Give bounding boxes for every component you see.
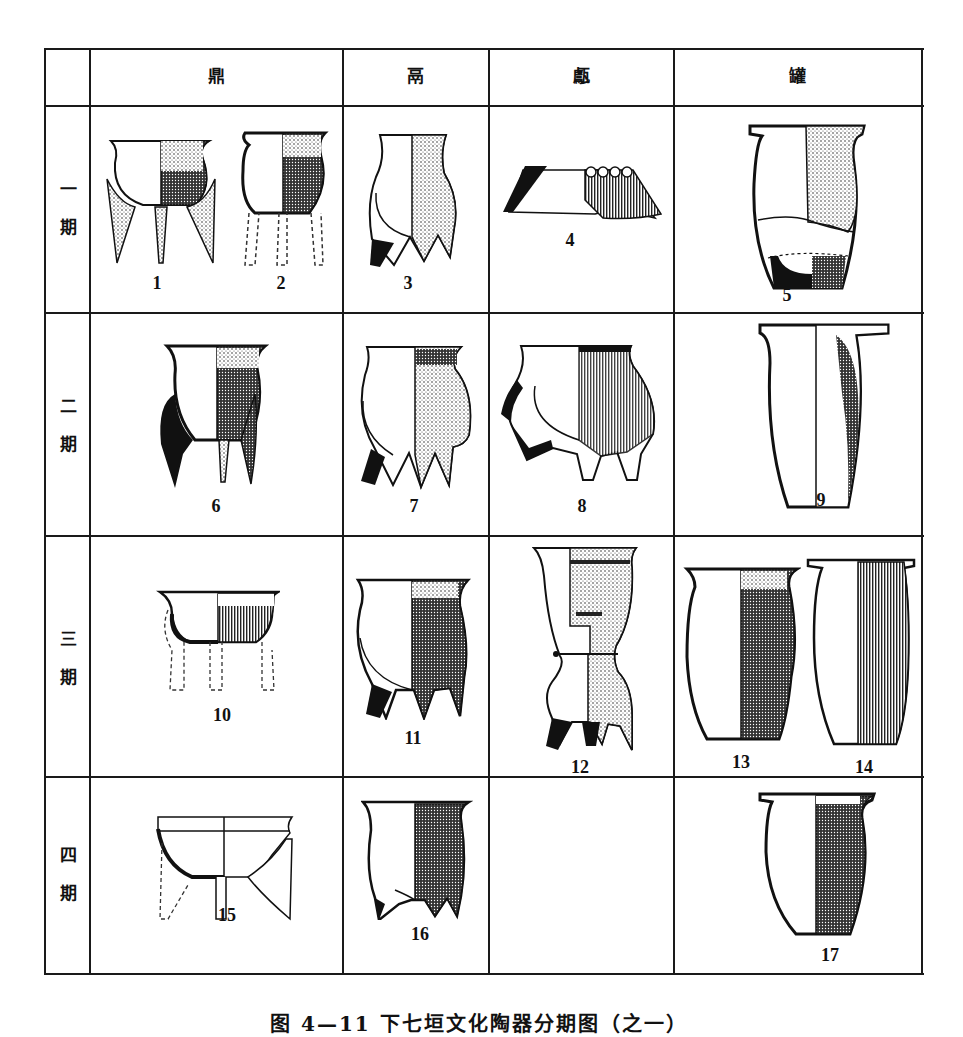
vessel-12-yan-drawing xyxy=(532,546,642,754)
vessel-8-yan-drawing xyxy=(497,344,662,484)
item-number-1: 1 xyxy=(153,273,162,294)
col-divider-4 xyxy=(673,48,675,975)
item-number-3: 3 xyxy=(404,273,413,294)
vessel-4-yan-drawing xyxy=(495,162,665,222)
item-number-8: 8 xyxy=(578,496,587,517)
col-divider-2 xyxy=(342,48,344,975)
vessel-11-li-drawing xyxy=(352,578,474,720)
column-header-ding: 鼎 xyxy=(208,62,225,87)
item-number-2: 2 xyxy=(277,273,286,294)
vessel-7-li-drawing xyxy=(355,345,477,493)
vessel-3-li-drawing xyxy=(364,133,464,269)
vessel-13-guan-drawing xyxy=(683,567,801,741)
vessel-5-guan-drawing xyxy=(748,124,866,290)
table-right-border xyxy=(921,48,923,975)
period-label-4: 四 期 xyxy=(57,836,79,912)
table-top-border xyxy=(45,48,924,50)
period-2-suffix: 期 xyxy=(57,425,79,463)
period-3-suffix: 期 xyxy=(57,658,79,696)
item-number-5: 5 xyxy=(783,285,792,306)
col-divider-3 xyxy=(488,48,490,975)
item-number-14: 14 xyxy=(855,757,873,778)
item-number-16: 16 xyxy=(411,924,429,945)
item-number-9: 9 xyxy=(817,490,826,511)
vessel-1-ding-drawing xyxy=(105,137,223,267)
item-number-10: 10 xyxy=(213,705,231,726)
row-2-border xyxy=(45,535,924,537)
item-number-13: 13 xyxy=(732,752,750,773)
period-1-suffix: 期 xyxy=(57,208,79,246)
column-header-yan: 甗 xyxy=(573,62,590,87)
period-4-suffix: 期 xyxy=(57,874,79,912)
vessel-17-guan-drawing xyxy=(758,792,878,938)
table-left-border xyxy=(44,48,46,975)
table-bottom-border xyxy=(45,973,924,975)
vessel-6-ding-drawing xyxy=(155,344,275,492)
period-1-number: 一 xyxy=(57,170,79,208)
item-number-6: 6 xyxy=(212,496,221,517)
period-label-1: 一 期 xyxy=(57,170,79,246)
period-label-3: 三 期 xyxy=(57,620,79,696)
period-4-number: 四 xyxy=(57,836,79,874)
vessel-9-guan-drawing xyxy=(758,323,890,509)
period-label-2: 二 期 xyxy=(57,387,79,463)
period-2-number: 二 xyxy=(57,387,79,425)
vessel-16-li-drawing xyxy=(361,800,473,920)
row-3-border xyxy=(45,776,924,778)
item-number-7: 7 xyxy=(410,496,419,517)
col-divider-1 xyxy=(89,48,91,975)
column-header-guan: 罐 xyxy=(789,62,806,87)
vessel-14-guan-drawing xyxy=(806,558,916,748)
header-bottom-border xyxy=(45,105,924,107)
period-3-number: 三 xyxy=(57,620,79,658)
item-number-12: 12 xyxy=(571,757,589,778)
item-number-4: 4 xyxy=(566,230,575,251)
item-number-17: 17 xyxy=(821,945,839,966)
figure-caption: 图 4—11 下七垣文化陶器分期图（之一） xyxy=(270,1008,688,1037)
vessel-10-ding-drawing xyxy=(156,590,280,692)
row-1-border xyxy=(45,312,924,314)
column-header-li: 鬲 xyxy=(407,62,424,87)
item-number-15: 15 xyxy=(218,905,236,926)
item-number-11: 11 xyxy=(404,728,421,749)
vessel-2-ding-drawing xyxy=(237,131,332,269)
